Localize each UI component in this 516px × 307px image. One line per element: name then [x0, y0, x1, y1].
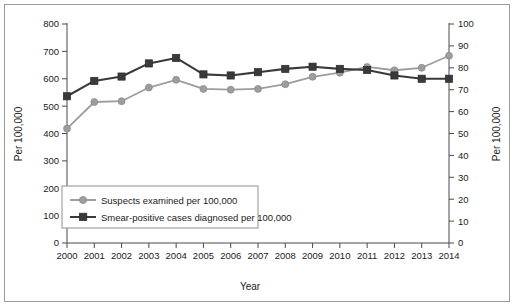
y-axis-left-tick-label: 0: [54, 237, 59, 248]
data-point: [446, 52, 453, 59]
data-point: [254, 69, 261, 76]
data-point: [227, 86, 234, 93]
data-point: [309, 73, 316, 80]
y-axis-left-tick-label: 300: [43, 155, 59, 166]
y-axis-right-tick-label: 50: [458, 128, 469, 139]
legend-item-smear: Smear-positive cases diagnosed per 100,0…: [70, 212, 292, 223]
series-suspects: [64, 52, 453, 132]
y-axis-right-tick-label: 60: [458, 106, 469, 117]
data-point: [255, 85, 262, 92]
y-axis-right-tick-label: 30: [458, 172, 469, 183]
y-axis-left-title: Per 100,000: [13, 106, 24, 161]
x-axis-tick-label: 2008: [275, 250, 296, 261]
data-point: [418, 64, 425, 71]
x-axis-tick-label: 2005: [193, 250, 214, 261]
x-axis-tick-label: 2003: [138, 250, 159, 261]
x-axis-tick-label: 2006: [220, 250, 241, 261]
y-axis-right-tick-label: 20: [458, 194, 469, 205]
y-axis-right-tick-label: 80: [458, 62, 469, 73]
x-axis-tick-label: 2011: [357, 250, 377, 261]
data-point: [64, 125, 71, 132]
y-axis-left-tick-label: 400: [43, 128, 59, 139]
data-point: [91, 77, 98, 84]
data-point: [418, 75, 425, 82]
y-axis-right-tick-label: 90: [458, 40, 469, 51]
data-point: [364, 66, 371, 73]
y-axis-right-title: Per 100,000: [491, 106, 502, 161]
data-point: [145, 84, 152, 91]
data-point: [145, 60, 152, 67]
y-axis-right-tick-label: 40: [458, 150, 469, 161]
x-axis-tick-label: 2014: [438, 250, 459, 261]
y-axis-right-tick-label: 100: [458, 18, 474, 29]
legend-label-smear: Smear-positive cases diagnosed per 100,0…: [101, 212, 292, 223]
x-axis-tick-label: 2013: [411, 250, 432, 261]
x-axis-tick-label: 2001: [84, 250, 105, 261]
square-marker-icon: [79, 213, 86, 220]
data-point: [282, 65, 289, 72]
y-axis-left-tick-label: 100: [43, 210, 59, 221]
x-axis-tick-label: 2007: [247, 250, 268, 261]
y-axis-left-tick-label: 500: [43, 101, 59, 112]
y-axis-left-tick-label: 800: [43, 18, 59, 29]
x-axis-tick-label: 2004: [166, 250, 187, 261]
y-axis-left-tick-label: 700: [43, 46, 59, 57]
data-point: [118, 73, 125, 80]
data-point: [118, 98, 125, 105]
data-point: [173, 76, 180, 83]
x-axis-title: Year: [240, 281, 261, 292]
x-axis-tick-label: 2012: [384, 250, 405, 261]
data-point: [227, 72, 234, 79]
series-layer: [63, 52, 452, 132]
y-axis-right-tick-label: 70: [458, 84, 469, 95]
series-smear: [63, 54, 452, 100]
line-chart: 0100200300400500600700800010203040506070…: [0, 0, 516, 307]
data-point: [309, 63, 316, 70]
data-point: [282, 81, 289, 88]
data-point: [445, 75, 452, 82]
data-point: [200, 85, 207, 92]
chart-container: 0100200300400500600700800010203040506070…: [0, 0, 516, 307]
x-axis-tick-label: 2000: [56, 250, 77, 261]
y-axis-right-tick-label: 10: [458, 216, 469, 227]
data-point: [336, 65, 343, 72]
legend-label-suspects: Suspects examined per 100,000: [101, 195, 237, 206]
x-axis-tick-label: 2009: [302, 250, 323, 261]
data-point: [63, 93, 70, 100]
chart-legend: Suspects examined per 100,000 Smear-posi…: [62, 186, 292, 228]
data-point: [200, 71, 207, 78]
y-axis-left-tick-label: 600: [43, 73, 59, 84]
x-axis-tick-label: 2002: [111, 250, 132, 261]
data-point: [391, 72, 398, 79]
x-axis-tick-label: 2010: [329, 250, 350, 261]
y-axis-left-tick-label: 200: [43, 183, 59, 194]
circle-marker-icon: [79, 196, 86, 203]
data-point: [173, 54, 180, 61]
y-axis-right-tick-label: 0: [458, 237, 463, 248]
data-point: [91, 99, 98, 106]
